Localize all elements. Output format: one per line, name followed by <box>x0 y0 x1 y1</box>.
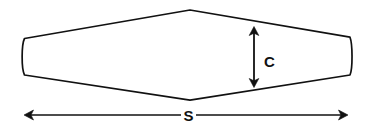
span-dimension: S <box>24 107 348 124</box>
wing-planform-outline <box>22 10 352 100</box>
wing-planform-diagram: C S <box>0 0 369 130</box>
figure-container: C S <box>0 0 369 130</box>
span-dimension-label: S <box>183 107 193 124</box>
chord-dimension-label: C <box>264 53 275 70</box>
